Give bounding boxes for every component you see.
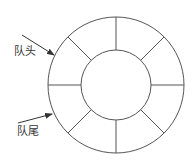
circular-queue-diagram <box>0 0 196 165</box>
queue-tail-label: 队尾 <box>17 126 39 137</box>
queue-slot-dividers <box>48 17 184 153</box>
slot-divider <box>141 110 164 133</box>
queue-head-label: 队头 <box>14 46 36 57</box>
tail-pointer-arrow <box>18 114 52 123</box>
slot-divider <box>68 37 91 60</box>
slot-divider <box>68 110 91 133</box>
inner-ring <box>81 50 151 120</box>
slot-divider <box>141 37 164 60</box>
